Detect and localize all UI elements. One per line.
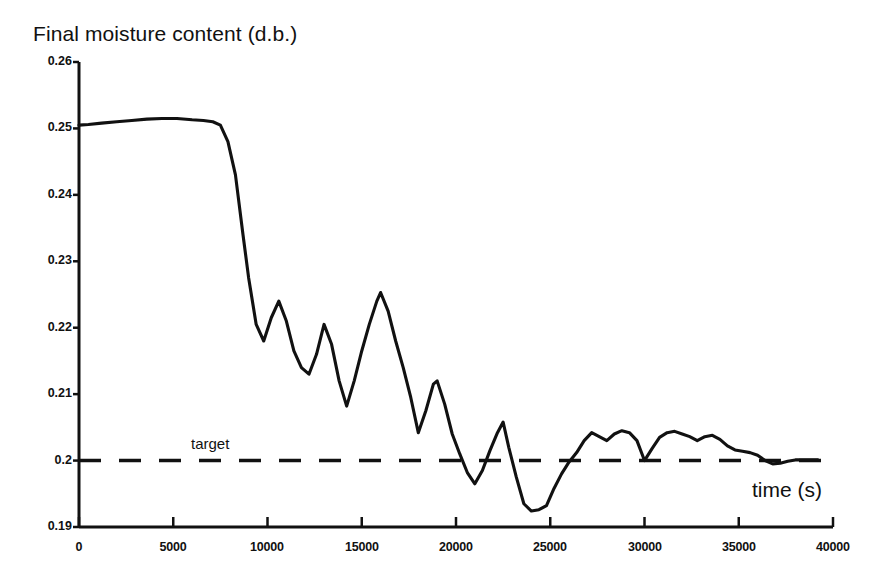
chart-container: Final moisture content (d.b.) time (s) t… — [0, 0, 877, 587]
plot-area — [0, 0, 877, 587]
axis-lines — [79, 62, 833, 527]
moisture-content-line — [79, 118, 818, 511]
